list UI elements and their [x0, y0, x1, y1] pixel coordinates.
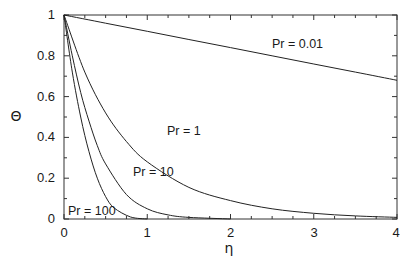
curve-pr-100: [64, 15, 147, 219]
y-tick-0.2: 0.2: [37, 170, 55, 185]
curve-pr-1: [64, 15, 397, 217]
curve-pr-0.01: [64, 15, 397, 80]
x-axis-label: η: [225, 240, 234, 256]
label-pr-0.01: Pr = 0.01: [272, 37, 323, 51]
x-tick-3: 3: [310, 225, 317, 240]
y-tick-1: 1: [48, 7, 55, 22]
x-tick-2: 2: [227, 225, 234, 240]
y-tick-0.4: 0.4: [37, 129, 55, 144]
axis-ticks: [64, 15, 397, 219]
x-tick-1: 1: [143, 225, 150, 240]
label-pr-100: Pr = 100: [68, 204, 116, 218]
y-tick-0.8: 0.8: [37, 48, 55, 63]
y-axis-label: Θ: [10, 108, 21, 124]
chart: 0 0.2 0.4 0.6 0.8 1 0 1 2 3 4 η Θ Pr = 0…: [0, 0, 408, 261]
label-pr-1: Pr = 1: [167, 124, 201, 138]
label-pr-10: Pr = 10: [133, 165, 174, 179]
y-tick-0: 0: [48, 211, 55, 226]
curve-pr-10: [64, 15, 231, 219]
curves: [64, 15, 397, 219]
x-tick-4: 4: [392, 225, 399, 240]
plot-frame: [64, 15, 397, 219]
x-tick-0: 0: [60, 225, 67, 240]
y-tick-0.6: 0.6: [37, 89, 55, 104]
